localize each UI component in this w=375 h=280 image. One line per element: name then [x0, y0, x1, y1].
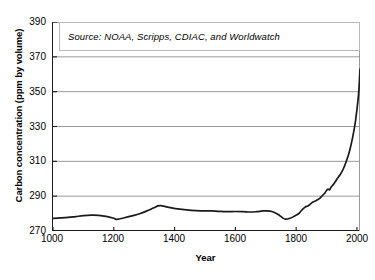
- x-tick-label: 1400: [151, 234, 197, 244]
- y-tick-label: 390: [12, 17, 46, 27]
- x-tick-label: 1800: [273, 234, 319, 244]
- x-tick-label: 1200: [90, 234, 136, 244]
- y-tick-label: 330: [12, 122, 46, 132]
- y-tick-label: 310: [12, 156, 46, 166]
- carbon-concentration-chart: Carbon concentration (ppm by volume) Yea…: [0, 0, 375, 280]
- y-tick-label: 290: [12, 191, 46, 201]
- source-annotation-text: Source: NOAA, Scripps, CDIAC, and Worldw…: [68, 31, 280, 42]
- x-tick-marks: [53, 227, 357, 231]
- gridlines: [53, 22, 360, 231]
- plot-area: [52, 22, 359, 231]
- plot-svg: [53, 22, 360, 231]
- y-tick-label: 350: [12, 87, 46, 97]
- x-tick-label: 2000: [334, 234, 375, 244]
- x-tick-label: 1000: [29, 234, 75, 244]
- y-tick-marks: [53, 22, 57, 231]
- y-tick-label: 370: [12, 52, 46, 62]
- x-axis-title: Year: [52, 252, 359, 263]
- x-tick-label: 1600: [212, 234, 258, 244]
- source-annotation-box: Source: NOAA, Scripps, CDIAC, and Worldw…: [59, 22, 360, 51]
